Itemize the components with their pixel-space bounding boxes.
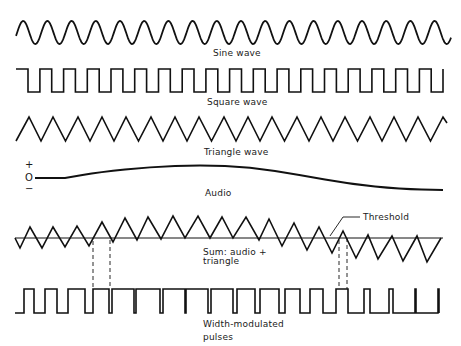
square-wave-label: Square wave — [207, 97, 268, 107]
pwm-pulse-trace — [15, 289, 439, 313]
audio-signal-trace — [35, 166, 443, 191]
sine-wave-trace — [16, 21, 451, 44]
threshold-leader-line — [330, 217, 360, 236]
sum-label-line2: triangle — [203, 256, 239, 266]
sine-wave-label: Sine wave — [213, 48, 261, 58]
audio-zero-mark: O — [25, 173, 33, 183]
square-wave-trace — [16, 69, 443, 92]
audio-plus-sign: + — [25, 160, 33, 170]
audio-minus-sign: − — [25, 184, 33, 194]
pwm-label-line2: pulses — [203, 332, 233, 342]
threshold-label: Threshold — [363, 212, 409, 222]
audio-label: Audio — [205, 188, 232, 198]
triangle-wave-trace — [16, 117, 447, 141]
triangle-wave-label: Triangle wave — [204, 147, 269, 157]
pwm-label-line1: Width-modulated — [203, 319, 284, 329]
